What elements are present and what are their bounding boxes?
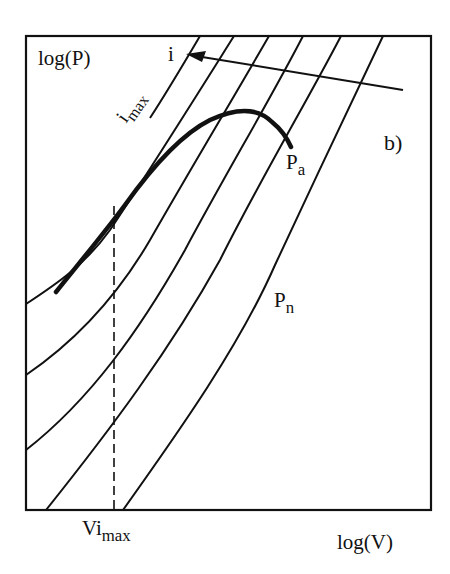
current-curve-pn <box>123 36 383 510</box>
current-curve-1 <box>26 36 269 375</box>
current-curve-imax <box>26 36 234 304</box>
power-envelope-curve <box>56 111 291 292</box>
current-curve-3 <box>46 36 341 510</box>
diagram-figure: log(P) log(V) b) i imax Pa Pn Vimax <box>0 0 450 574</box>
current-arrow-label: i <box>168 44 174 65</box>
current-arrow <box>186 51 403 90</box>
vimax-label-sub: max <box>102 526 131 545</box>
current-curve-top-1 <box>150 36 200 118</box>
diagram-canvas <box>0 0 450 574</box>
current-curve-2 <box>26 36 303 450</box>
y-axis-label: log(P) <box>38 48 91 69</box>
panel-label: b) <box>384 132 402 154</box>
pa-label: Pa <box>286 152 305 179</box>
x-axis-label: log(V) <box>337 532 393 553</box>
constant-current-curves <box>26 36 383 510</box>
pn-label: Pn <box>274 290 294 317</box>
pn-label-sub: n <box>286 298 294 317</box>
pn-label-base: P <box>274 288 286 312</box>
pa-label-base: P <box>286 150 298 174</box>
pa-label-sub: a <box>298 160 305 179</box>
vimax-label: Vimax <box>82 518 131 545</box>
vimax-label-base: Vi <box>82 516 102 540</box>
